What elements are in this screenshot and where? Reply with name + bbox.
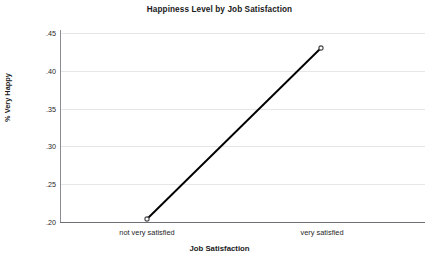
gridline (60, 109, 425, 110)
gridline (60, 184, 425, 185)
y-tick-label: .45 (30, 29, 56, 38)
plot-area (60, 33, 425, 222)
x-tick-label-very-satisfied: very satisfied (300, 228, 343, 237)
y-axis-spine (60, 30, 61, 223)
x-tick-label-not-very-satisfied: not very satisfied (119, 228, 174, 237)
x-axis-spine (60, 222, 425, 223)
y-tick-label: .30 (30, 142, 56, 151)
y-tick-label: .25 (30, 180, 56, 189)
x-axis-title: Job Satisfaction (0, 244, 439, 253)
y-tick-label: .35 (30, 104, 56, 113)
y-tick-label: .20 (30, 218, 56, 227)
chart-container: Happiness Level by Job Satisfaction % Ve… (0, 0, 439, 265)
chart-title: Happiness Level by Job Satisfaction (0, 5, 439, 14)
y-tick-label: .40 (30, 66, 56, 75)
y-axis-title: % Very Happy (3, 48, 12, 148)
gridline (60, 33, 425, 34)
y-axis-tick-labels: .45 .40 .35 .30 .25 .20 (28, 0, 56, 265)
gridline (60, 146, 425, 147)
gridline (60, 71, 425, 72)
